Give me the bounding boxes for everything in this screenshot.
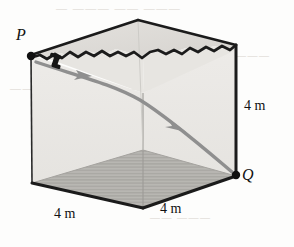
dimension-label-depth-right: 4 m — [160, 201, 181, 217]
dimension-label-width-left: 4 m — [54, 206, 75, 222]
point-P-label: P — [16, 26, 26, 44]
point-Q-marker — [232, 171, 240, 179]
point-Q-label: Q — [242, 166, 254, 184]
box-diagram-svg — [0, 0, 294, 247]
figure-container: — ——— —— ——— ————— —— ————— ——— —— ——— — [0, 0, 294, 247]
point-P-marker — [27, 52, 35, 60]
left-vertical-edge — [31, 56, 32, 183]
dimension-label-height: 4 m — [244, 98, 265, 114]
